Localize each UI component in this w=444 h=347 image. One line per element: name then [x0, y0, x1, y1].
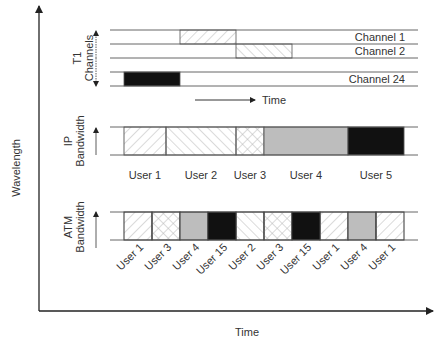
t1-channel-label: Channel 24 — [349, 73, 405, 85]
t1-channel-label: Channel 2 — [355, 45, 405, 57]
atm-cell — [208, 212, 236, 240]
t1-channel-slot — [180, 30, 236, 44]
ip-segment — [236, 127, 264, 155]
atm-user-label: User 2 — [226, 241, 257, 272]
y-axis-label: Wavelength — [10, 139, 22, 197]
ip-segment — [348, 127, 404, 155]
t1-label: T1 — [71, 52, 83, 65]
multiplexing-diagram: Wavelength Time T1 Channels Channel 1Cha… — [0, 0, 444, 347]
atm-cell — [264, 212, 292, 240]
t1-channels-group: T1 Channels Channel 1Channel 2Channel 24… — [71, 30, 418, 106]
x-axis-label: Time — [235, 326, 259, 338]
ip-bandwidth-label: Bandwidth — [74, 115, 86, 166]
ip-user-label: User 4 — [290, 169, 322, 181]
atm-cell — [180, 212, 208, 240]
ip-label: IP — [62, 136, 74, 146]
ip-bandwidth-group: IP Bandwidth User 1User 2User 3User 4Use… — [62, 115, 418, 181]
atm-cell — [152, 212, 180, 240]
ip-segment — [166, 127, 236, 155]
atm-bandwidth-group: ATM Bandwidth User 1User 3User 4User 15U… — [62, 201, 418, 276]
ip-user-label: User 3 — [234, 169, 266, 181]
ip-segment — [264, 127, 348, 155]
atm-user-label: User 1 — [366, 241, 397, 272]
atm-user-label: User 4 — [338, 241, 369, 272]
atm-cell — [292, 212, 320, 240]
atm-cell — [124, 212, 152, 240]
ip-user-label: User 5 — [360, 169, 392, 181]
atm-user-label: User 1 — [310, 241, 341, 272]
atm-user-label: User 15 — [278, 241, 314, 277]
t1-time-label: Time — [262, 94, 286, 106]
atm-user-label: User 15 — [194, 241, 230, 277]
atm-cell — [236, 212, 264, 240]
atm-cell — [320, 212, 348, 240]
ip-user-label: User 1 — [129, 169, 161, 181]
t1-channel-label: Channel 1 — [355, 31, 405, 43]
ip-segment — [124, 127, 166, 155]
atm-user-label: User 3 — [142, 241, 173, 272]
atm-user-label: User 1 — [114, 241, 145, 272]
atm-label: ATM — [62, 216, 74, 238]
atm-bandwidth-label: Bandwidth — [74, 201, 86, 252]
t1-channels-label: Channels — [83, 34, 95, 81]
atm-cell — [348, 212, 376, 240]
t1-channel-slot — [124, 72, 180, 86]
ip-user-label: User 2 — [185, 169, 217, 181]
atm-cell — [376, 212, 404, 240]
t1-channel-slot — [236, 44, 292, 58]
